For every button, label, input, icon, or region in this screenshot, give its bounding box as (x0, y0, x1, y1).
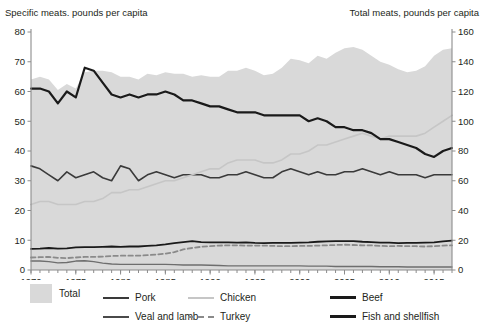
right-tick-label: 0 (458, 264, 463, 275)
left-axis-title: Specific meats. pounds per capita (5, 7, 148, 18)
turkey-swatch-icon (188, 316, 214, 318)
legend-label-fish-and-shellfish: Fish and shellfish (362, 311, 439, 322)
left-tick-label: 0 (20, 264, 25, 275)
right-tick-label: 140 (458, 56, 474, 67)
left-tick-label: 40 (14, 145, 25, 156)
right-tick-label: 80 (458, 145, 469, 156)
plot-area: 0102030405060708002040608010012014016019… (0, 22, 485, 280)
right-axis-title: Total meats, pounds per capita (350, 7, 479, 18)
x-tick-label: 1990 (200, 276, 221, 280)
left-tick-label: 80 (14, 26, 25, 37)
legend-label-beef: Beef (362, 292, 383, 303)
x-tick-label: 1995 (244, 276, 265, 280)
legend-label-total: Total (59, 288, 80, 299)
legend-item-turkey[interactable]: Turkey (188, 307, 250, 326)
legend-label-chicken: Chicken (220, 292, 256, 303)
legend-label-pork: Pork (135, 292, 156, 303)
legend-item-beef[interactable]: Beef (330, 288, 383, 307)
fish-and-shellfish-swatch-icon (330, 315, 356, 318)
left-tick-label: 20 (14, 205, 25, 216)
veal-and-lamb-swatch-icon (103, 316, 129, 318)
legend-item-veal-and-lamb[interactable]: Veal and lamb (103, 307, 198, 326)
pork-swatch-icon (103, 297, 129, 299)
legend-row-2: Veal and lamb Turkey Fish and shellfish (0, 307, 485, 326)
x-tick-label: 2005 (334, 276, 355, 280)
legend-item-total[interactable]: Total (30, 279, 80, 307)
right-tick-label: 160 (458, 26, 474, 37)
x-tick-label: 2010 (379, 276, 400, 280)
left-tick-label: 60 (14, 86, 25, 97)
right-tick-label: 60 (458, 175, 469, 186)
left-tick-label: 10 (14, 235, 25, 246)
chicken-swatch-icon (188, 297, 214, 299)
legend-row-1: Total Pork Chicken Beef (0, 288, 485, 307)
right-tick-label: 40 (458, 205, 469, 216)
total-area-series (31, 47, 452, 270)
left-tick-label: 30 (14, 175, 25, 186)
x-tick-label: 2015 (424, 276, 445, 280)
left-tick-label: 50 (14, 116, 25, 127)
x-tick-label: 1980 (110, 276, 131, 280)
x-tick-label: 2000 (289, 276, 310, 280)
chart-canvas: 0102030405060708002040608010012014016019… (0, 22, 485, 280)
right-tick-label: 20 (458, 235, 469, 246)
right-tick-label: 120 (458, 86, 474, 97)
legend-label-turkey: Turkey (220, 311, 250, 322)
legend-item-chicken[interactable]: Chicken (188, 288, 256, 307)
series-area-total (31, 47, 452, 270)
total-swatch-icon (30, 284, 52, 303)
beef-swatch-icon (330, 296, 356, 299)
x-tick-label: 1985 (155, 276, 176, 280)
legend-item-pork[interactable]: Pork (103, 288, 156, 307)
chart-root: Specific meats. pounds per capita Total … (0, 0, 485, 331)
right-tick-label: 100 (458, 116, 474, 127)
legend: Total Pork Chicken Beef Veal and lamb (0, 288, 485, 331)
left-tick-label: 70 (14, 56, 25, 67)
legend-item-fish-and-shellfish[interactable]: Fish and shellfish (330, 307, 439, 326)
